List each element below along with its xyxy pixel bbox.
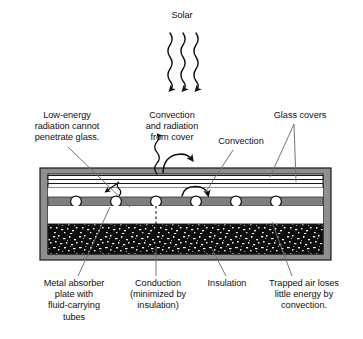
solar-rays-group	[168, 33, 198, 90]
collector-illustration	[0, 0, 363, 339]
fluid-tube	[271, 196, 282, 207]
solar-ray-3	[194, 33, 198, 90]
fluid-tube	[151, 196, 162, 207]
glass-cover-inner	[48, 184, 323, 188]
lower-air-space	[48, 206, 323, 224]
fluid-tube	[231, 196, 242, 207]
solar-ray-2	[181, 33, 185, 90]
fluid-tube	[71, 196, 82, 207]
solar-ray-1	[168, 33, 172, 90]
glass-cover-outer	[48, 176, 323, 180]
fluid-tube	[191, 196, 202, 207]
solar-collector-diagram: Solar Low-energy radiation cannot penetr…	[0, 0, 363, 339]
